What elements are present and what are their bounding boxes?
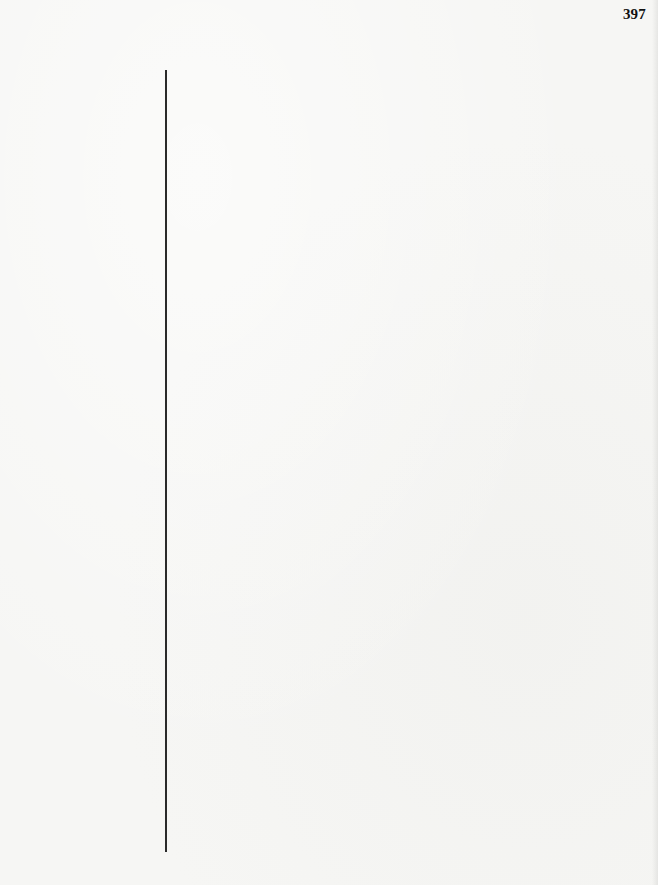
page-edge-shadow	[652, 0, 658, 885]
vertical-rule-line	[165, 70, 167, 852]
document-page: 397	[0, 0, 658, 885]
page-number: 397	[623, 6, 646, 23]
